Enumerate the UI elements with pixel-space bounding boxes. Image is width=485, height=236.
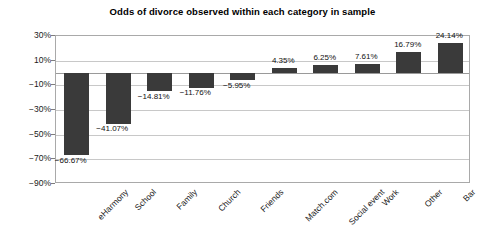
x-axis-category-label: Friends bbox=[258, 187, 285, 214]
x-axis-category-label: Family bbox=[174, 187, 199, 212]
bar-value-label: −41.07% bbox=[82, 124, 142, 133]
bar bbox=[355, 64, 380, 73]
x-axis-category-label: Other bbox=[422, 187, 444, 209]
y-axis-tick-label: −10% bbox=[5, 79, 51, 89]
bar bbox=[272, 68, 297, 73]
bar-value-label: 16.79% bbox=[378, 40, 438, 49]
x-axis-category-label: Church bbox=[216, 187, 242, 213]
y-axis-tick-label: 10% bbox=[5, 55, 51, 65]
x-axis-category-label: School bbox=[133, 187, 158, 212]
bar-value-label: 24.14% bbox=[419, 31, 479, 40]
y-axis-tick-label: −90% bbox=[5, 178, 51, 188]
x-axis-category-label: Match.com bbox=[303, 187, 339, 223]
x-axis-category-label: eHarmony bbox=[95, 187, 130, 222]
bar bbox=[64, 73, 89, 155]
y-axis-tick-mark bbox=[51, 183, 55, 184]
gridline bbox=[56, 135, 469, 136]
divorce-odds-bar-chart: Odds of divorce observed within each cat… bbox=[0, 0, 485, 236]
y-axis-tick-label: −50% bbox=[5, 129, 51, 139]
bar bbox=[438, 43, 463, 73]
bar bbox=[313, 65, 338, 73]
bar bbox=[230, 73, 255, 80]
x-axis-category-label: Social event bbox=[346, 187, 386, 227]
bar-value-label: −5.95% bbox=[207, 81, 267, 90]
x-axis-category-label: Bar bbox=[461, 187, 477, 203]
y-axis-tick-label: 30% bbox=[5, 30, 51, 40]
chart-title: Odds of divorce observed within each cat… bbox=[0, 6, 485, 17]
bar-value-label: −66.67% bbox=[41, 156, 101, 165]
bar bbox=[396, 52, 421, 73]
bar-value-label: 7.61% bbox=[336, 52, 396, 61]
gridline bbox=[56, 159, 469, 160]
y-axis-tick-label: −30% bbox=[5, 104, 51, 114]
